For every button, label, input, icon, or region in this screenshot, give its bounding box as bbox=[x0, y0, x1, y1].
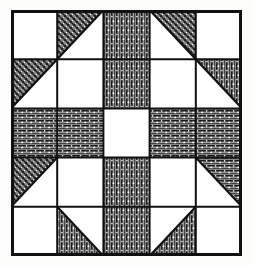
patch-cell bbox=[103, 10, 149, 59]
quilt-block-page bbox=[0, 0, 253, 266]
patch-square bbox=[103, 59, 149, 108]
patch-cell bbox=[57, 108, 103, 157]
patch-cell bbox=[196, 108, 242, 157]
patch-layer bbox=[11, 10, 242, 256]
patch-square bbox=[103, 158, 149, 207]
patch-cell bbox=[11, 108, 57, 157]
patch-cell bbox=[150, 108, 196, 157]
patch-square bbox=[103, 207, 149, 256]
patch-square bbox=[196, 108, 242, 157]
patch-square bbox=[57, 108, 103, 157]
patch-cell bbox=[103, 59, 149, 108]
quilt-block-canvas bbox=[11, 10, 242, 256]
quilt-block bbox=[11, 10, 242, 256]
patch-square bbox=[11, 108, 57, 157]
patch-cell bbox=[103, 207, 149, 256]
patch-cell bbox=[103, 158, 149, 207]
patch-square bbox=[103, 10, 149, 59]
patch-square bbox=[150, 108, 196, 157]
